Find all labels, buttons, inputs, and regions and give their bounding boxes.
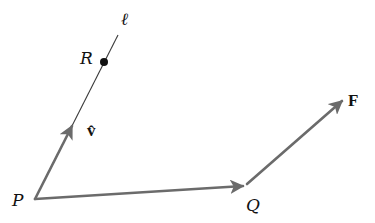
label-q: Q — [246, 195, 260, 215]
label-p: P — [11, 190, 24, 210]
vector-pq — [35, 186, 243, 199]
vector-diagram: ℓ R v̂ P Q F — [0, 0, 375, 223]
vector-f — [247, 101, 342, 184]
label-f: F — [348, 91, 358, 110]
label-line-l: ℓ — [121, 9, 128, 29]
label-v-hat: v̂ — [87, 121, 96, 140]
vector-v-hat — [35, 126, 72, 199]
point-r — [100, 58, 108, 66]
label-r: R — [79, 48, 93, 68]
